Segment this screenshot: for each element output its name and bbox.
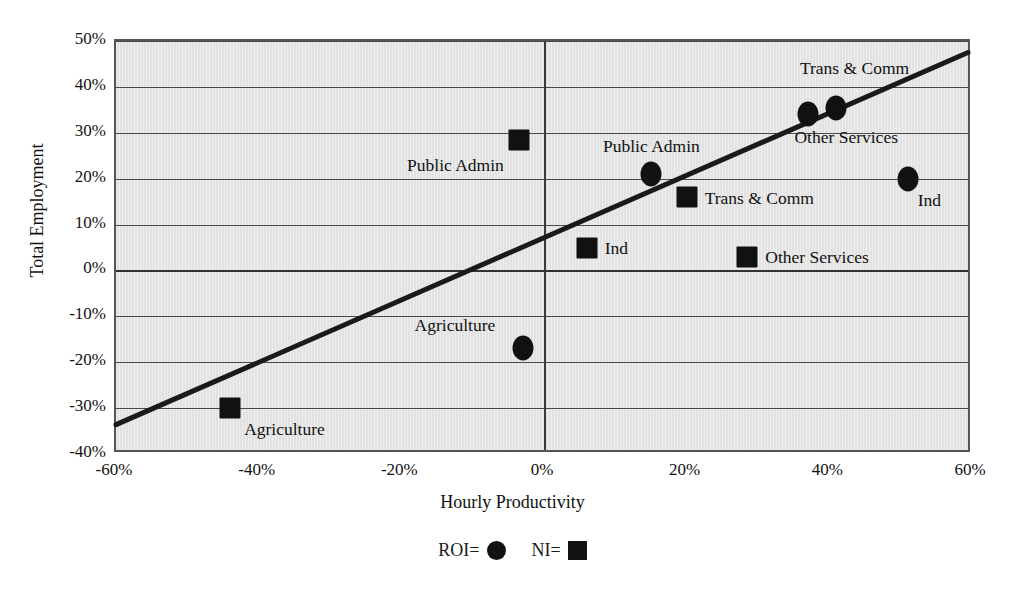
data-point-ni-other-services [737,246,758,267]
point-label: Ind [918,192,941,210]
y-tick-label: -20% [69,350,106,370]
data-point-roi-agriculture [512,336,533,361]
x-tick-label: 60% [954,460,985,480]
point-label: Public Admin [603,138,700,156]
scatter-chart: AgriculturePublic AdminTrans & CommOther… [0,0,1025,603]
y-tick-label: 30% [75,121,106,141]
y-tick-label: -30% [69,396,106,416]
chart-legend: ROI=NI= [0,540,1025,561]
y-tick-label: 0% [83,258,106,278]
x-axis-title: Hourly Productivity [0,492,1025,513]
x-tick-label: -60% [96,460,133,480]
y-tick-label: -40% [69,442,106,462]
point-label: Trans & Comm [800,60,909,78]
point-label: Other Services [794,129,898,147]
data-point-ni-agriculture [220,398,241,419]
point-label: Public Admin [407,157,504,175]
data-point-ni-ind [576,237,597,258]
y-tick-label: 40% [75,75,106,95]
point-label: Agriculture [415,317,496,335]
legend-entry: NI= [532,540,587,561]
y-tick-label: 50% [75,29,106,49]
y-tick-label: 20% [75,167,106,187]
x-tick-label: 40% [812,460,843,480]
legend-entry: ROI= [438,540,505,561]
legend-label: NI= [532,540,561,561]
x-tick-label: 0% [531,460,554,480]
point-label: Other Services [765,249,869,267]
point-label: Agriculture [244,421,325,439]
y-tick-label: 10% [75,213,106,233]
square-marker-icon [568,541,587,560]
data-point-roi-trans-comm [797,102,818,127]
x-tick-label: 20% [669,460,700,480]
data-point-ni-trans-comm [676,187,697,208]
x-axis-ticks: -60%-40%-20%0%20%40%60% [114,460,970,486]
y-tick-label: -10% [69,304,106,324]
y-axis-title: Total Employment [27,111,48,311]
point-label: Ind [605,240,628,258]
data-point-roi-ind [897,166,918,191]
data-point-ni-public-admin [509,129,530,150]
data-point-roi-other-services [826,95,847,120]
x-tick-label: -40% [238,460,275,480]
circle-marker-icon [487,541,506,560]
x-tick-label: -20% [381,460,418,480]
legend-label: ROI= [438,540,479,561]
data-point-roi-public-admin [641,162,662,187]
plot-area: AgriculturePublic AdminTrans & CommOther… [114,39,970,452]
point-label: Trans & Comm [705,190,814,208]
